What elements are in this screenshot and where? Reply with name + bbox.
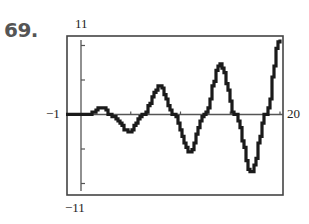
function-curve	[66, 40, 280, 172]
graph-window	[0, 0, 309, 224]
